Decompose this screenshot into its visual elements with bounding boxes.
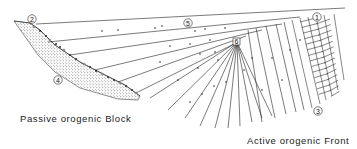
pebble <box>63 49 65 51</box>
marker-5: 5 <box>184 19 192 27</box>
sediment-dot <box>201 93 203 95</box>
imbricate-tick <box>318 30 331 35</box>
basin-layer <box>136 42 238 93</box>
sediment-dot <box>194 30 196 32</box>
caption-passive-orogenic-block: Passive orogenic Block <box>20 113 131 124</box>
sediment-dot <box>281 79 283 81</box>
svg-text:3: 3 <box>316 108 320 115</box>
pebble <box>33 26 35 28</box>
sediment-dot <box>169 45 171 47</box>
steep-layer-line <box>276 24 296 112</box>
svg-text:1: 1 <box>315 14 319 21</box>
marker-1: 1 <box>313 13 321 21</box>
basin-layer <box>118 36 246 82</box>
sediment-dot <box>199 53 201 55</box>
sediment-dot <box>251 57 253 59</box>
sediment-dot <box>299 39 301 41</box>
thrust-plane <box>334 14 344 80</box>
sediment-dot <box>197 67 199 69</box>
basin-layer <box>48 17 300 42</box>
sediment-dot <box>101 30 103 32</box>
pebble <box>69 54 71 56</box>
marker-6: 6 <box>233 38 240 46</box>
sediment-dot <box>289 49 291 51</box>
sediment-dot <box>214 51 216 53</box>
sediment-dot <box>117 29 119 31</box>
fan-line <box>150 42 237 98</box>
imbricate-tick <box>331 91 339 96</box>
sediment-dot <box>154 27 156 29</box>
pebble <box>45 35 47 37</box>
sediment-dot <box>224 27 226 29</box>
imbricate-tick <box>317 25 331 30</box>
passive-block-wedge <box>14 21 140 100</box>
sediment-dot <box>177 79 179 81</box>
pebble <box>89 66 91 68</box>
sediment-dot <box>189 101 191 103</box>
pebble <box>75 58 77 60</box>
sediment-dot <box>261 89 263 91</box>
fan-line <box>185 42 237 118</box>
steep-layer-line <box>266 26 286 114</box>
sediment-dot <box>159 61 161 63</box>
svg-text:4: 4 <box>56 77 60 84</box>
imbricate-tick <box>324 58 335 63</box>
fan-line <box>168 42 237 110</box>
marker-4: 4 <box>54 76 62 84</box>
sediment-dot <box>217 59 219 61</box>
thrust-plane <box>292 20 312 108</box>
sediment-dot <box>271 57 273 59</box>
sediment-fan <box>150 22 304 128</box>
fan-line <box>237 42 262 118</box>
imbricate-tick <box>330 86 339 91</box>
sediment-dot <box>189 43 191 45</box>
marker-2: 2 <box>28 15 36 23</box>
pebble <box>135 92 137 94</box>
imbricate-tick <box>322 47 334 52</box>
pebble <box>95 70 97 72</box>
steep-layer-line <box>256 28 275 118</box>
caption-active-orogenic-front: Active orogenic Front <box>247 135 349 146</box>
pebble <box>55 43 57 45</box>
steep-layer-line <box>248 30 262 122</box>
svg-text:6: 6 <box>235 38 239 45</box>
imbricate-thrust-zone <box>292 14 344 108</box>
pebble <box>113 79 115 81</box>
pebble <box>101 73 103 75</box>
basin-layer <box>95 30 262 70</box>
imbricate-tick <box>321 41 333 46</box>
sediment-dot <box>225 81 227 83</box>
thrust-plane <box>316 16 332 96</box>
sediment-dot <box>243 69 245 71</box>
fan-line <box>228 42 237 128</box>
imbricate-tick <box>323 52 334 57</box>
pebble <box>131 89 133 91</box>
pebble <box>125 85 127 87</box>
geological-cross-section: 2 1 5 6 4 3 <box>0 0 357 149</box>
pebble <box>119 82 121 84</box>
sediment-dot <box>161 25 163 27</box>
pebble <box>49 39 51 41</box>
svg-text:5: 5 <box>186 20 190 27</box>
marker-3: 3 <box>314 107 322 115</box>
pebble <box>39 30 41 32</box>
imbricate-tick <box>319 36 332 41</box>
sediment-dot <box>204 28 206 30</box>
sediment-dot <box>209 39 211 41</box>
pebble <box>59 46 61 48</box>
sediment-dot <box>213 85 215 87</box>
svg-text:2: 2 <box>30 16 34 23</box>
pebble <box>107 76 109 78</box>
pebble <box>83 63 85 65</box>
steep-layer-line <box>284 22 304 110</box>
